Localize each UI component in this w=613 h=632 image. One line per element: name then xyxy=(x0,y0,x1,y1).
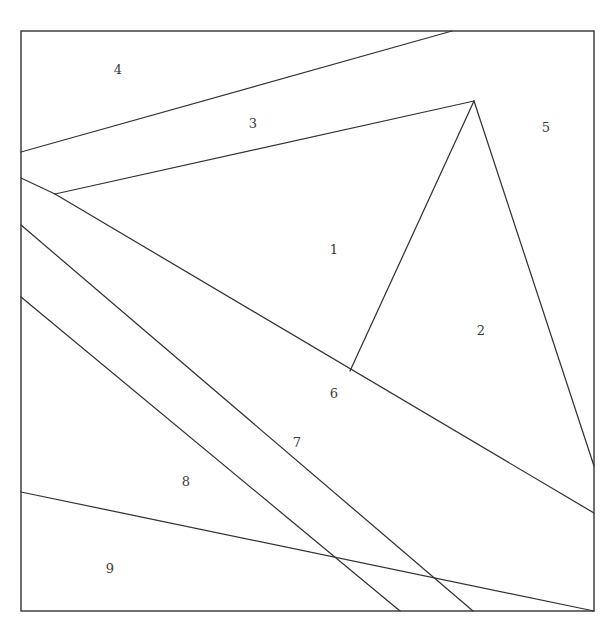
region-3-label: 3 xyxy=(249,117,257,130)
seg-8-divider xyxy=(21,297,400,611)
seg-1-6-long-diagonal xyxy=(55,194,594,513)
region-4-label: 4 xyxy=(114,63,122,76)
seg-fan-to-spur xyxy=(350,101,474,371)
region-5-label: 5 xyxy=(542,121,550,134)
figure-lines-svg xyxy=(0,0,613,632)
outer-square-border xyxy=(21,31,594,611)
figure-canvas: 123456789 xyxy=(0,0,613,632)
seg-9-divider xyxy=(21,492,594,611)
seg-fan-to-right-edge xyxy=(474,101,594,466)
seg-7-divider xyxy=(21,225,473,611)
region-9-label: 9 xyxy=(106,562,114,575)
region-7-label: 7 xyxy=(293,436,301,449)
region-6-label: 6 xyxy=(330,387,338,400)
seg-4-3-divider xyxy=(21,31,452,152)
partition-line-group xyxy=(21,31,594,611)
region-8-label: 8 xyxy=(182,475,190,488)
region-1-label: 1 xyxy=(330,243,338,256)
seg-3-1-divider xyxy=(55,101,474,194)
seg-left-b-to-junction xyxy=(21,178,55,194)
region-2-label: 2 xyxy=(477,324,485,337)
